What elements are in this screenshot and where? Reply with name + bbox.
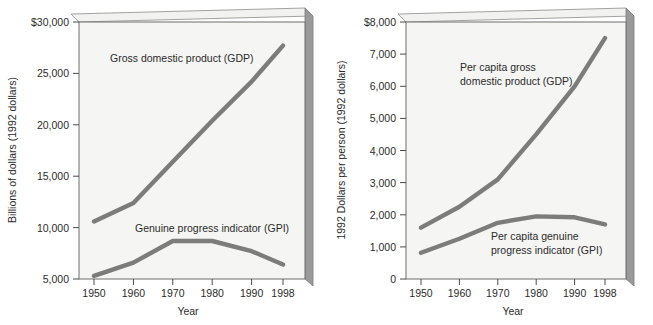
y-tick-label: $8,000 [364, 16, 396, 28]
x-tick-label: 1950 [82, 287, 106, 299]
x-tick-label: 1980 [201, 287, 225, 299]
x-tick-label: 1998 [593, 287, 617, 299]
series-label-per-capita-gpi-line1: Per capita genuine [491, 230, 579, 242]
x-axis-title: Year [502, 305, 524, 317]
y-tick-label: 15,000 [37, 170, 69, 182]
x-tick-label: 1980 [525, 287, 549, 299]
y-tick-label: 5,000 [370, 112, 396, 124]
x-tick-label: 1950 [409, 287, 433, 299]
y-tick-label: 10,000 [37, 222, 69, 234]
chart-svg-total: $30,000 25,000 20,000 15,000 10,000 5,00… [0, 0, 330, 325]
series-label-gpi: Genuine progress indicator (GPI) [135, 222, 289, 234]
chart-panel-per-capita: $8,000 7,000 6,000 5,000 4,000 3,000 2,0… [330, 0, 653, 325]
x-axis-tick-labels: 1950 1960 1970 1980 1990 1998 [409, 287, 617, 299]
y-axis-tick-labels: $8,000 7,000 6,000 5,000 4,000 3,000 2,0… [364, 16, 396, 285]
y-tick-label: 20,000 [37, 119, 69, 131]
box-right-face [305, 8, 313, 286]
y-axis-ticks [400, 22, 406, 279]
chart-svg-per-capita: $8,000 7,000 6,000 5,000 4,000 3,000 2,0… [330, 0, 653, 325]
x-axis-tick-labels: 1950 1960 1970 1980 1990 1998 [82, 287, 295, 299]
x-axis-title: Year [177, 305, 199, 317]
series-label-per-capita-gpi-line2: progress indicator (GPI) [491, 244, 602, 256]
y-tick-label: 1,000 [370, 241, 396, 253]
y-tick-label: 3,000 [370, 177, 396, 189]
y-tick-label: 7,000 [370, 48, 396, 60]
y-tick-label: 4,000 [370, 145, 396, 157]
x-tick-label: 1998 [271, 287, 295, 299]
box-top-face [71, 8, 313, 22]
y-tick-label: 25,000 [37, 67, 69, 79]
x-tick-label: 1990 [240, 287, 264, 299]
y-tick-label: 0 [390, 273, 396, 285]
y-tick-label: $30,000 [31, 16, 69, 28]
y-axis-ticks [73, 22, 79, 279]
x-tick-label: 1970 [161, 287, 185, 299]
series-label-per-capita-gdp-line1: Per capita gross [460, 61, 536, 73]
x-tick-label: 1960 [448, 287, 472, 299]
x-tick-label: 1970 [486, 287, 510, 299]
y-axis-title: 1992 Dollars per person (1992 dollars) [335, 60, 347, 239]
series-label-per-capita-gdp-line2: domestic product (GDP) [460, 75, 573, 87]
y-tick-label: 2,000 [370, 209, 396, 221]
x-tick-label: 1990 [563, 287, 587, 299]
y-axis-title: Billions of dollars (1992 dollars) [6, 77, 18, 223]
chart-panel-total: $30,000 25,000 20,000 15,000 10,000 5,00… [0, 0, 330, 325]
box-top-face [398, 8, 634, 22]
x-tick-label: 1960 [122, 287, 146, 299]
y-axis-tick-labels: $30,000 25,000 20,000 15,000 10,000 5,00… [31, 16, 69, 285]
figure-two-panel-gdp-gpi: $30,000 25,000 20,000 15,000 10,000 5,00… [0, 0, 653, 325]
y-tick-label: 5,000 [43, 273, 69, 285]
box-right-face [626, 8, 634, 286]
series-label-gdp: Gross domestic product (GDP) [110, 52, 254, 64]
y-tick-label: 6,000 [370, 80, 396, 92]
x-axis-ticks [421, 279, 605, 285]
